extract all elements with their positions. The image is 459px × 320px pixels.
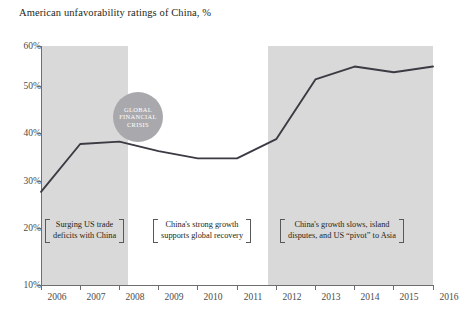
data-line bbox=[41, 46, 433, 285]
x-tick-label-2015: 2015 bbox=[400, 292, 419, 302]
x-tick-label-2012: 2012 bbox=[283, 292, 302, 302]
annotation-growth-slows: China's growth slows, island disputes, a… bbox=[280, 219, 404, 243]
x-tick-label-2010: 2010 bbox=[204, 292, 223, 302]
y-axis: 60% 50% 40% 30% 20% 10% bbox=[0, 0, 41, 320]
x-tick-mark-2016 bbox=[433, 286, 434, 290]
x-tick-mark-2015 bbox=[393, 286, 394, 290]
bracket-right-icon bbox=[246, 219, 251, 243]
x-tick-mark-2006 bbox=[41, 286, 42, 290]
series-path bbox=[41, 67, 433, 192]
x-tick-label-2009: 2009 bbox=[165, 292, 184, 302]
gfc-line-2: FINANCIAL bbox=[119, 113, 157, 121]
global-financial-crisis-callout: GLOBAL FINANCIAL CRISIS bbox=[113, 92, 163, 142]
gfc-line-3: CRISIS bbox=[127, 121, 149, 129]
x-tick-mark-2008 bbox=[119, 286, 120, 290]
x-tick-mark-2011 bbox=[237, 286, 238, 290]
bracket-right-icon bbox=[119, 219, 124, 243]
chart-title: American unfavorability ratings of China… bbox=[19, 7, 211, 18]
x-tick-mark-2010 bbox=[197, 286, 198, 290]
x-tick-mark-2014 bbox=[354, 286, 355, 290]
x-tick-label-2016: 2016 bbox=[440, 292, 459, 302]
x-tick-mark-2009 bbox=[158, 286, 159, 290]
x-tick-mark-2007 bbox=[80, 286, 81, 290]
x-tick-label-2008: 2008 bbox=[126, 292, 145, 302]
gfc-line-1: GLOBAL bbox=[124, 106, 152, 114]
x-tick-label-2011: 2011 bbox=[244, 292, 263, 302]
x-tick-label-2014: 2014 bbox=[361, 292, 380, 302]
annotation-growth-slows-text: China's growth slows, island disputes, a… bbox=[285, 219, 399, 243]
annotation-trade-deficits: Surging US trade deficits with China bbox=[45, 219, 124, 243]
x-tick-label-2013: 2013 bbox=[322, 292, 341, 302]
bracket-right-icon bbox=[399, 219, 404, 243]
x-tick-mark-2013 bbox=[315, 286, 316, 290]
x-tick-label-2007: 2007 bbox=[87, 292, 106, 302]
x-tick-label-2006: 2006 bbox=[48, 292, 67, 302]
annotation-trade-deficits-text: Surging US trade deficits with China bbox=[50, 219, 119, 243]
x-tick-mark-2012 bbox=[276, 286, 277, 290]
annotation-strong-growth-text: China's strong growth supports global re… bbox=[158, 219, 246, 243]
annotation-strong-growth: China's strong growth supports global re… bbox=[153, 219, 251, 243]
